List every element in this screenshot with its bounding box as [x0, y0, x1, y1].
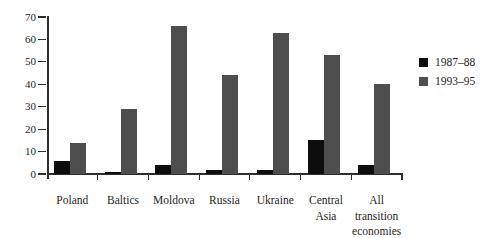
- bar-1993-95-moldova: [171, 26, 187, 174]
- y-tick-10: [38, 151, 46, 152]
- legend-swatch-1993-95: [419, 77, 428, 86]
- bar-1993-95-poland: [70, 143, 86, 174]
- y-tick-label-20: 20: [6, 123, 36, 136]
- bar-1987-88-russia: [206, 170, 222, 175]
- y-tick-20: [38, 129, 46, 130]
- x-tick-6: [351, 174, 352, 180]
- y-tick-50: [38, 61, 46, 62]
- x-tick-4: [249, 174, 250, 180]
- category-label-line: Russia: [199, 193, 250, 209]
- x-tick-1: [97, 174, 98, 180]
- legend: 1987–88 1993–95: [419, 56, 475, 94]
- bar-1987-88-baltics: [105, 172, 121, 174]
- plot-area: [47, 17, 402, 174]
- y-tick-label-10: 10: [6, 145, 36, 158]
- category-label-line: Moldova: [148, 193, 199, 209]
- legend-item-1987-88: 1987–88: [419, 56, 475, 69]
- bar-1993-95-russia: [222, 75, 238, 174]
- legend-label-1993-95: 1993–95: [435, 75, 475, 88]
- legend-swatch-1987-88: [419, 58, 428, 67]
- x-tick-7: [401, 174, 402, 180]
- category-label-russia: Russia: [199, 193, 250, 209]
- y-tick-60: [38, 39, 46, 40]
- category-label-line: transition: [351, 209, 402, 225]
- y-tick-70: [38, 16, 46, 17]
- bar-1993-95-central-asia: [324, 55, 340, 174]
- category-label-ukraine: Ukraine: [250, 193, 301, 209]
- y-tick-40: [38, 84, 46, 85]
- legend-label-1987-88: 1987–88: [435, 56, 475, 69]
- bar-1993-95-baltics: [121, 109, 137, 174]
- category-label-baltics: Baltics: [98, 193, 149, 209]
- bar-1987-88-ukraine: [257, 170, 273, 175]
- legend-item-1993-95: 1993–95: [419, 75, 475, 88]
- bar-1993-95-all-transition-economies: [374, 84, 390, 174]
- y-tick-label-50: 50: [6, 55, 36, 68]
- bar-1987-88-central-asia: [308, 140, 324, 174]
- bar-1993-95-ukraine: [273, 33, 289, 174]
- category-label-central-asia: CentralAsia: [301, 193, 352, 224]
- y-tick-label-70: 70: [6, 11, 36, 24]
- bar-1987-88-moldova: [155, 165, 171, 174]
- category-label-line: Central: [301, 193, 352, 209]
- category-label-all-transition-economies: Alltransitioneconomies: [351, 193, 402, 238]
- y-tick-label-40: 40: [6, 78, 36, 91]
- category-label-line: economies: [351, 224, 402, 238]
- bar-1987-88-poland: [54, 161, 70, 175]
- category-label-line: Asia: [301, 209, 352, 225]
- x-tick-2: [148, 174, 149, 180]
- y-tick-label-30: 30: [6, 100, 36, 113]
- category-label-line: Baltics: [98, 193, 149, 209]
- category-label-line: Ukraine: [250, 193, 301, 209]
- bar-chart: 010203040506070 PolandBalticsMoldovaRuss…: [0, 0, 482, 238]
- y-tick-label-0: 0: [6, 168, 36, 181]
- y-tick-30: [38, 106, 46, 107]
- bar-1987-88-all-transition-economies: [358, 165, 374, 174]
- category-label-line: Poland: [47, 193, 98, 209]
- category-label-line: All: [351, 193, 402, 209]
- category-label-poland: Poland: [47, 193, 98, 209]
- x-tick-3: [199, 174, 200, 180]
- y-tick-0: [38, 173, 46, 174]
- y-tick-label-60: 60: [6, 33, 36, 46]
- x-tick-5: [300, 174, 301, 180]
- category-label-moldova: Moldova: [148, 193, 199, 209]
